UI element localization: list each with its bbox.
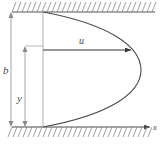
velocity-label: u bbox=[79, 35, 84, 46]
x-axis-label: x bbox=[152, 122, 157, 132]
figure-canvas: b y u x bbox=[0, 0, 165, 153]
bottom-wall-group bbox=[8, 127, 152, 137]
velocity-profile-curve bbox=[43, 12, 141, 127]
top-wall-hatching bbox=[12, 2, 156, 12]
bottom-wall-hatching bbox=[8, 127, 152, 137]
b-arrowhead-top bbox=[9, 12, 14, 18]
velocity-profile-figure: b y u x bbox=[0, 0, 165, 153]
y-arrowhead-bottom bbox=[23, 121, 28, 127]
vertical-position-label: y bbox=[16, 92, 22, 104]
channel-width-dimension: b bbox=[3, 12, 14, 127]
channel-width-label: b bbox=[3, 64, 9, 76]
top-wall-group bbox=[12, 2, 156, 12]
y-arrowhead-top bbox=[23, 46, 28, 52]
b-arrowhead-bottom bbox=[9, 121, 14, 127]
vertical-position-dimension: y bbox=[16, 46, 43, 127]
